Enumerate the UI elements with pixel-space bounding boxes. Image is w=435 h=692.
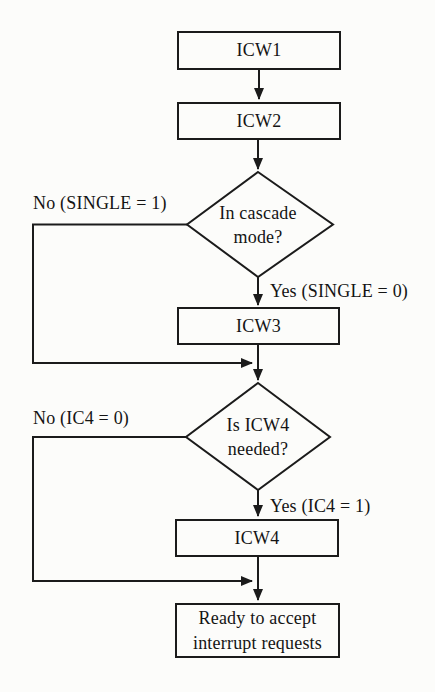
- icw4-decision-line1: Is ICW4: [198, 413, 318, 437]
- edge-label-cascade-no: No (SINGLE = 1): [33, 193, 167, 213]
- flowchart-canvas: ICW1 ICW2 ICW3 ICW4 Ready to accept inte…: [0, 0, 435, 692]
- node-icw3-label: ICW3: [236, 314, 281, 339]
- edge-label-cascade-yes: Yes (SINGLE = 0): [270, 281, 408, 301]
- node-ready-label-line1: Ready to accept: [199, 606, 317, 631]
- cascade-decision-line2: mode?: [198, 225, 318, 249]
- node-icw4: ICW4: [175, 519, 339, 557]
- node-icw2: ICW2: [177, 102, 341, 140]
- cascade-decision-line1: In cascade: [198, 201, 318, 225]
- node-icw1-label: ICW1: [237, 38, 282, 63]
- node-icw3: ICW3: [177, 307, 340, 345]
- node-icw2-label: ICW2: [237, 109, 282, 134]
- node-icw4-decision-label: Is ICW4 needed?: [198, 413, 318, 461]
- node-cascade-decision-label: In cascade mode?: [198, 201, 318, 249]
- node-ready: Ready to accept interrupt requests: [175, 603, 340, 658]
- node-ready-label-line2: interrupt requests: [193, 631, 322, 656]
- edge-label-icw4-no: No (IC4 = 0): [33, 408, 129, 428]
- edge-label-icw4-yes: Yes (IC4 = 1): [270, 496, 370, 516]
- node-icw4-label: ICW4: [235, 526, 280, 551]
- node-icw1: ICW1: [177, 31, 341, 70]
- icw4-decision-line2: needed?: [198, 437, 318, 461]
